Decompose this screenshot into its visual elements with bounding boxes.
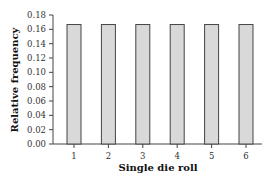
- x-tick-label: 3: [140, 151, 145, 161]
- y-tick-label: 0.00: [27, 139, 46, 149]
- x-tick-label: 4: [174, 151, 179, 161]
- bars: [67, 25, 253, 144]
- y-tick-label: 0.06: [27, 96, 46, 106]
- x-tick-label: 5: [209, 151, 214, 161]
- y-tick-label: 0.04: [27, 110, 46, 120]
- x-tick-label: 2: [106, 151, 111, 161]
- bar-2: [101, 25, 115, 144]
- y-tick-label: 0.14: [27, 39, 46, 49]
- bar-4: [170, 25, 184, 144]
- bar-1: [67, 25, 81, 144]
- y-tick-label: 0.10: [27, 67, 46, 77]
- y-axis: 0.000.020.040.060.080.100.120.140.160.18: [27, 10, 53, 149]
- bar-5: [205, 25, 219, 144]
- bar-3: [136, 25, 150, 144]
- y-tick-label: 0.02: [27, 125, 46, 135]
- bar-chart: 0.000.020.040.060.080.100.120.140.160.18…: [0, 0, 275, 184]
- x-axis-title: Single die roll: [118, 162, 197, 173]
- y-tick-label: 0.16: [27, 24, 46, 34]
- y-tick-label: 0.08: [27, 82, 46, 92]
- x-axis: 123456: [53, 144, 262, 161]
- x-tick-label: 6: [243, 151, 248, 161]
- y-axis-title: Relative frequency: [9, 26, 20, 132]
- y-tick-label: 0.18: [27, 10, 46, 20]
- y-tick-label: 0.12: [27, 53, 46, 63]
- bar-6: [239, 25, 253, 144]
- x-tick-label: 1: [71, 151, 76, 161]
